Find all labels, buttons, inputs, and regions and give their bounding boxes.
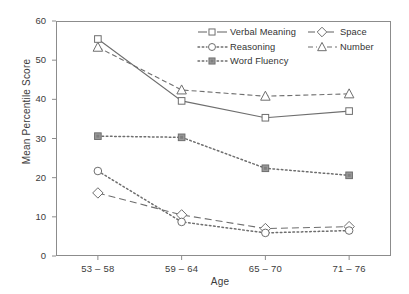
y-tick-label: 30	[24, 133, 46, 144]
series-line	[98, 193, 349, 229]
data-point	[94, 167, 102, 175]
chart-figure: Mean Percentile Score Age 0102030405060 …	[0, 0, 409, 294]
y-tick-label: 40	[24, 93, 46, 104]
x-tick-label: 65 – 70	[225, 263, 305, 274]
legend-item-space: Space	[306, 26, 367, 38]
y-tick-label: 20	[24, 172, 46, 183]
data-point	[93, 188, 103, 198]
data-point	[262, 165, 269, 172]
x-axis-title: Age	[160, 276, 280, 287]
data-point	[177, 85, 187, 94]
data-point	[262, 114, 269, 121]
legend-row: Word Fluency	[196, 55, 386, 67]
y-tick-label: 60	[24, 15, 46, 26]
data-point	[95, 133, 102, 140]
y-tick-label: 10	[24, 211, 46, 222]
open-circle-marker-icon	[196, 41, 230, 53]
legend-label: Verbal Meaning	[230, 27, 296, 37]
legend-item-number: Number	[306, 41, 374, 53]
chart-legend: Verbal Meaning Space Reasoning Number Wo…	[196, 26, 386, 70]
data-point	[178, 134, 185, 141]
legend-label: Number	[340, 42, 374, 52]
filled-square-marker-icon	[196, 55, 230, 67]
open-diamond-marker-icon	[306, 26, 340, 38]
x-tick-label: 53 – 58	[58, 263, 138, 274]
data-point	[345, 227, 353, 235]
data-point	[346, 172, 353, 179]
legend-item-word-fluency: Word Fluency	[196, 55, 306, 67]
x-tick-label: 71 – 76	[309, 263, 389, 274]
legend-item-verbal-meaning: Verbal Meaning	[196, 26, 306, 38]
legend-label: Reasoning	[230, 42, 275, 52]
x-tick-label: 59 – 64	[142, 263, 222, 274]
data-point	[346, 108, 353, 115]
legend-row: Reasoning Number	[196, 41, 386, 53]
data-point	[261, 91, 271, 100]
data-point	[178, 218, 186, 226]
series-line	[98, 171, 349, 233]
series-line	[98, 136, 349, 175]
data-point	[262, 229, 270, 237]
legend-row: Verbal Meaning Space	[196, 26, 386, 38]
open-triangle-marker-icon	[306, 41, 340, 53]
y-tick-label: 50	[24, 54, 46, 65]
data-point	[344, 89, 354, 98]
data-point	[178, 98, 185, 105]
data-point	[93, 42, 103, 51]
legend-label: Word Fluency	[230, 56, 288, 66]
legend-item-reasoning: Reasoning	[196, 41, 306, 53]
open-square-marker-icon	[196, 26, 230, 38]
legend-label: Space	[340, 27, 367, 37]
y-tick-label: 0	[24, 250, 46, 261]
